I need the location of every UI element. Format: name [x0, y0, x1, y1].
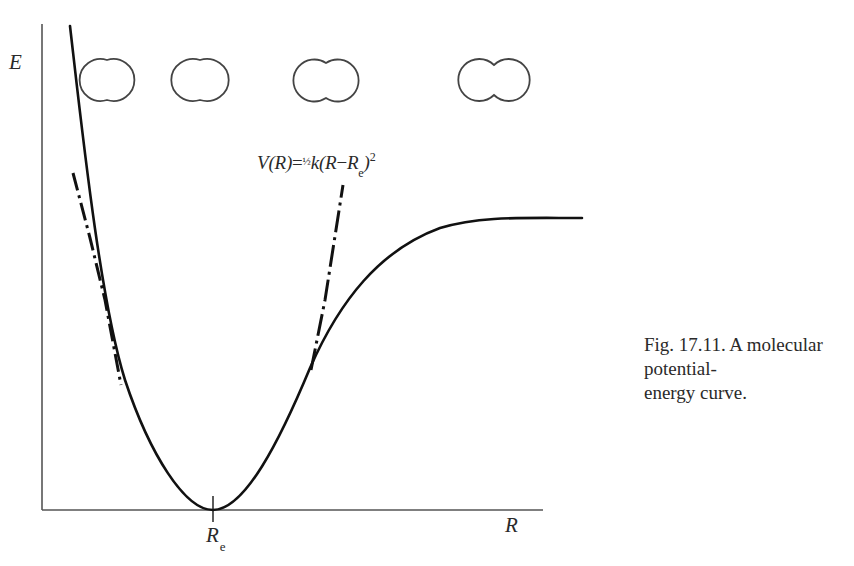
formula-k: k	[311, 152, 319, 173]
y-axis-label: E	[9, 50, 22, 75]
formula-re-sub: e	[358, 166, 363, 180]
re-symbol: R	[206, 523, 219, 547]
potential-energy-diagram	[0, 0, 854, 566]
molecule-icon-1	[80, 59, 135, 101]
molecule-icon-3	[293, 60, 358, 102]
formula-minus: −	[336, 152, 347, 173]
caption-line-1: Fig. 17.11. A molecular potential-	[644, 333, 854, 381]
re-tick-label: Re	[206, 523, 226, 551]
caption-line-2: energy curve.	[644, 381, 854, 405]
harmonic-formula-label: V(R)=½k(R−Re)2	[257, 150, 375, 178]
molecule-icon-2	[171, 59, 228, 101]
formula-open: (R	[319, 152, 337, 173]
molecule-icon-4	[458, 59, 529, 101]
re-subscript: e	[220, 539, 226, 554]
formula-equals: =	[292, 152, 303, 173]
formula-exponent: 2	[370, 150, 376, 164]
harmonic-approximation-left	[73, 173, 121, 385]
formula-re: R	[347, 152, 358, 173]
formula-lhs: V(R)	[257, 152, 292, 173]
x-axis-label: R	[505, 513, 518, 538]
figure-caption: Fig. 17.11. A molecular potential- energ…	[644, 333, 854, 405]
harmonic-approximation-right	[311, 185, 343, 370]
formula-half: ½	[303, 155, 311, 167]
